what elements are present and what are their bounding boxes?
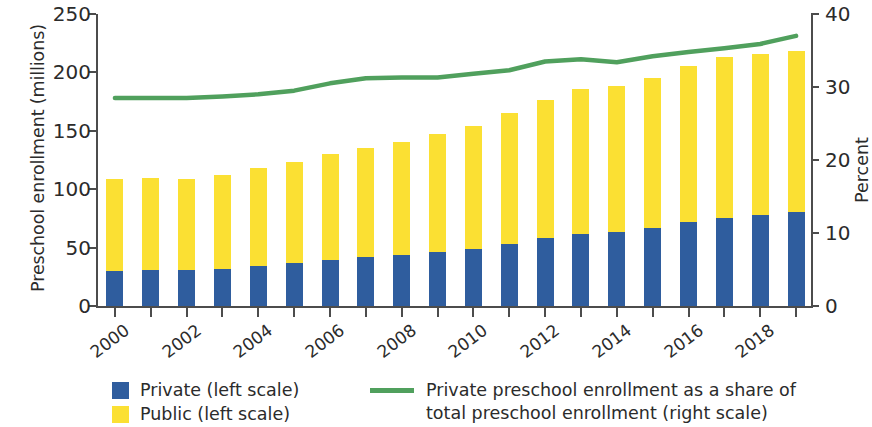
legend-swatch-line-icon (370, 388, 414, 393)
y-axis-left-tick-label: 150 (53, 121, 91, 141)
x-axis-tick-label: 2010 (443, 320, 492, 364)
x-axis-tick (795, 308, 797, 317)
x-axis-tick (580, 308, 582, 317)
y-axis-left-tick-label: 0 (78, 296, 91, 316)
line-series-share (115, 36, 796, 98)
x-axis-tick (508, 308, 510, 317)
x-axis-tick (544, 308, 546, 317)
legend-column-line: Private preschool enrollment as a share … (370, 379, 840, 425)
x-axis-tick-label: 2016 (658, 320, 707, 364)
legend-label-private: Private (left scale) (140, 379, 299, 402)
legend-item-public: Public (left scale) (112, 403, 362, 427)
x-axis-tick (150, 308, 152, 317)
x-axis-tick (186, 308, 188, 317)
line-series-layer (96, 14, 813, 308)
x-axis-tick (652, 308, 654, 317)
x-axis-tick (688, 308, 690, 317)
legend-column-bars: Private (left scale) Public (left scale) (112, 379, 362, 427)
x-axis-tick (257, 308, 259, 317)
legend-label-share-line: Private preschool enrollment as a share … (426, 379, 796, 425)
x-axis-tick (759, 308, 761, 317)
y-axis-right-tick-label: 40 (825, 4, 850, 24)
legend-label-share-line-1: Private preschool enrollment as a share … (426, 380, 796, 400)
y-axis-left-tick-label: 50 (66, 238, 91, 258)
y-axis-right-title: Percent (852, 90, 872, 250)
x-axis-tick-label: 2012 (514, 320, 563, 364)
x-axis-tick (723, 308, 725, 317)
x-axis-tick (329, 308, 331, 317)
legend-label-public: Public (left scale) (140, 403, 290, 426)
x-axis-tick-label: 2006 (299, 320, 348, 364)
legend-item-private: Private (left scale) (112, 379, 362, 403)
x-axis-tick (221, 308, 223, 317)
x-axis-tick-label: 2004 (228, 320, 277, 364)
x-axis-tick-label: 2008 (371, 320, 420, 364)
y-axis-left-tick-label: 250 (53, 4, 91, 24)
y-axis-right-tick-label: 10 (825, 223, 850, 243)
legend-swatch-public-icon (112, 406, 129, 423)
y-axis-right-tick-label: 20 (825, 150, 850, 170)
y-axis-right-tick-label: 30 (825, 77, 850, 97)
x-axis-tick (365, 308, 367, 317)
x-axis-tick-label: 2002 (156, 320, 205, 364)
plot-area: 050100150200250 010203040 20002002200420… (96, 14, 813, 307)
x-axis-tick (401, 308, 403, 317)
x-axis-tick-label: 2018 (729, 320, 778, 364)
legend-swatch-private-icon (112, 382, 129, 399)
x-axis-tick (472, 308, 474, 317)
x-axis-tick-label: 2014 (586, 320, 635, 364)
y-axis-left-title: Preschool enrollment (millions) (28, 13, 48, 303)
y-axis-left-tick-label: 100 (53, 179, 91, 199)
legend-item-share-line: Private preschool enrollment as a share … (370, 379, 840, 425)
y-axis-right-tick-label: 0 (825, 296, 838, 316)
x-axis-tick (293, 308, 295, 317)
x-axis-tick (616, 308, 618, 317)
x-axis-tick (437, 308, 439, 317)
y-axis-left-tick-label: 200 (53, 62, 91, 82)
legend-label-share-line-2: total preschool enrollment (right scale) (426, 403, 768, 423)
x-axis-tick-label: 2000 (84, 320, 133, 364)
x-axis-tick (114, 308, 116, 317)
